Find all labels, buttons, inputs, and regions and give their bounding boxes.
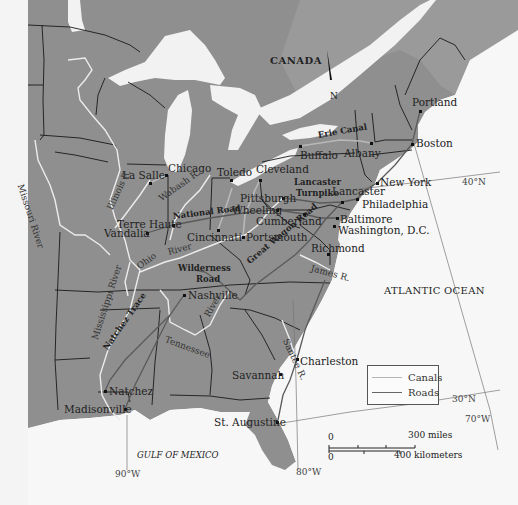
city-marker-icon: [183, 294, 186, 297]
graticule-label: 80°W: [296, 468, 321, 477]
city-label: Lancaster: [332, 186, 385, 197]
graticule-label: 30°N: [452, 395, 476, 404]
city-label: Boston: [416, 138, 453, 149]
historical-map: CANADA N ATLANTIC OCEAN GULF OF MEXICO P…: [0, 0, 518, 505]
city-label: Cincinnati: [187, 232, 242, 243]
legend-item-canals: Canals: [372, 372, 442, 383]
city-label: Buffalo: [300, 150, 338, 161]
city-label: Baltimore: [340, 214, 392, 225]
scale-miles-label: 300 miles: [408, 431, 452, 440]
city-marker-icon: [370, 142, 373, 145]
graticule-label: 70°W: [465, 415, 490, 424]
route-label: Turnpike: [296, 189, 339, 198]
road-line-swatch: [372, 392, 402, 394]
city-label: Natchez: [109, 386, 153, 397]
gulf-of-mexico-label: GULF OF MEXICO: [137, 451, 219, 460]
city-label: Madisonville: [64, 404, 132, 415]
legend-label: Canals: [408, 372, 442, 383]
city-marker-icon: [149, 182, 152, 185]
city-marker-icon: [165, 174, 168, 177]
city-label: Cleveland: [256, 164, 309, 175]
route-label: Lancaster: [294, 178, 341, 187]
city-label: New York: [380, 177, 431, 188]
scale-km-zero: 0: [328, 453, 334, 462]
legend-item-roads: Roads: [372, 387, 439, 398]
city-label: St. Augustine: [214, 417, 286, 428]
city-label: Portland: [412, 97, 457, 108]
scale-km-label: 400 kilometers: [394, 451, 462, 460]
city-marker-icon: [356, 198, 359, 201]
city-label: Philadelphia: [362, 199, 428, 210]
city-marker-icon: [104, 390, 107, 393]
city-label: Pittsburgh: [240, 193, 296, 204]
city-marker-icon: [333, 225, 336, 228]
canal-line-swatch: [372, 377, 402, 379]
city-marker-icon: [299, 145, 302, 148]
city-marker-icon: [230, 179, 233, 182]
city-marker-icon: [259, 179, 262, 182]
city-marker-icon: [341, 201, 344, 204]
city-label: Vandalia: [104, 228, 150, 239]
route-label: Road: [196, 275, 220, 284]
city-label: Toledo: [217, 167, 252, 178]
legend-label: Roads: [408, 387, 439, 398]
north-arrow-label: N: [330, 92, 338, 101]
city-label: Albany: [344, 148, 381, 159]
city-marker-icon: [336, 217, 339, 220]
city-label: Savannah: [232, 370, 284, 381]
graticule-label: 90°W: [115, 470, 140, 479]
atlantic-ocean-label: ATLANTIC OCEAN: [384, 286, 485, 296]
scale-bar: 0 300 miles 0 400 kilometers: [328, 433, 448, 463]
canada-label: CANADA: [270, 56, 322, 66]
legend: Canals Roads: [367, 365, 439, 405]
city-marker-icon: [242, 236, 245, 239]
city-label: Washington, D.C.: [338, 225, 430, 236]
scale-miles-zero: 0: [328, 433, 334, 442]
route-label: Wilderness: [178, 264, 231, 273]
city-marker-icon: [411, 143, 414, 146]
graticule-label: 40°N: [462, 178, 486, 187]
city-marker-icon: [419, 110, 422, 113]
city-label: Richmond: [311, 243, 365, 254]
city-label: Charleston: [300, 356, 358, 367]
